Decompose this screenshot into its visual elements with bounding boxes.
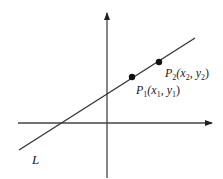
diagram-canvas: P1(x1, y1) P2(x2, y2) L <box>0 0 223 179</box>
label-P1: P1(x1, y1) <box>135 83 180 99</box>
label-P2: P2(x2, y2) <box>164 66 209 82</box>
point-P2 <box>156 59 162 65</box>
label-L: L <box>31 152 39 167</box>
point-P1 <box>129 74 135 80</box>
